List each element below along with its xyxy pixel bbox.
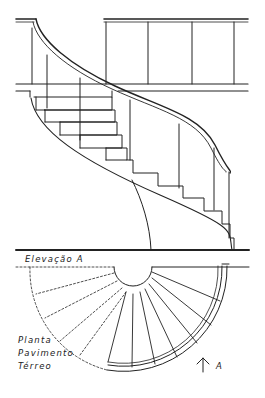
elevation-label: Elevação A: [25, 255, 84, 264]
central-well: [114, 267, 152, 286]
plan-label-line2: Pavimento: [18, 349, 74, 358]
center-column-curve: [132, 180, 151, 250]
stringer-curve: [31, 98, 232, 250]
upper-floor-slab: [16, 84, 248, 97]
plan-label-line1: Planta: [18, 336, 52, 345]
handrail: [33, 19, 231, 173]
stair-steps: [34, 91, 234, 250]
elevation-view: [16, 19, 249, 250]
section-arrow-icon: [197, 358, 209, 372]
plan-label-line3: Térreo: [18, 362, 52, 371]
section-marker-label: A: [216, 362, 223, 371]
upper-railing: [104, 19, 248, 84]
